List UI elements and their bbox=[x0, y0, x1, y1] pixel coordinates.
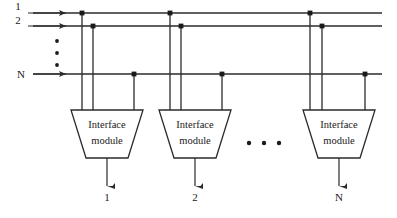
input-label-2: 2 bbox=[15, 14, 21, 26]
module-2-label-line2: module bbox=[179, 135, 211, 146]
junction-dot-m2-line1 bbox=[168, 11, 173, 16]
module-n-trapezoid[interactable] bbox=[303, 110, 375, 158]
module-n-group[interactable]: Interface module bbox=[303, 11, 375, 186]
junction-dot-mn-line1 bbox=[308, 11, 313, 16]
module-2-label-line1: Interface bbox=[176, 119, 214, 130]
horizontal-ellipsis bbox=[247, 141, 281, 145]
output-label-n: N bbox=[335, 191, 343, 203]
module-1-label-line2: module bbox=[91, 135, 123, 146]
module-1-group[interactable]: Interface module bbox=[71, 11, 143, 186]
input-label-n: N bbox=[17, 68, 25, 80]
output-label-2: 2 bbox=[192, 191, 198, 203]
junction-dot-m1-linen bbox=[132, 72, 137, 77]
junction-dot-m1-line1 bbox=[80, 11, 85, 16]
module-2-group[interactable]: Interface module bbox=[159, 11, 231, 186]
junction-dot-mn-linen bbox=[363, 72, 368, 77]
diagram-canvas: 1 2 N Interface module bbox=[0, 0, 397, 218]
junction-dot-mn-line2 bbox=[320, 24, 325, 29]
bus-interface-diagram: 1 2 N Interface module bbox=[0, 0, 397, 218]
output-label-1: 1 bbox=[104, 191, 110, 203]
module-n-label-line1: Interface bbox=[320, 119, 358, 130]
module-n-label-line2: module bbox=[323, 135, 355, 146]
module-1-trapezoid[interactable] bbox=[71, 110, 143, 158]
module-1-label-line1: Interface bbox=[88, 119, 126, 130]
junction-dot-m2-line2 bbox=[179, 24, 184, 29]
junction-dot-m2-linen bbox=[220, 72, 225, 77]
module-2-trapezoid[interactable] bbox=[159, 110, 231, 158]
input-label-1: 1 bbox=[15, 0, 21, 12]
vertical-ellipsis bbox=[55, 39, 59, 67]
junction-dot-m1-line2 bbox=[91, 24, 96, 29]
